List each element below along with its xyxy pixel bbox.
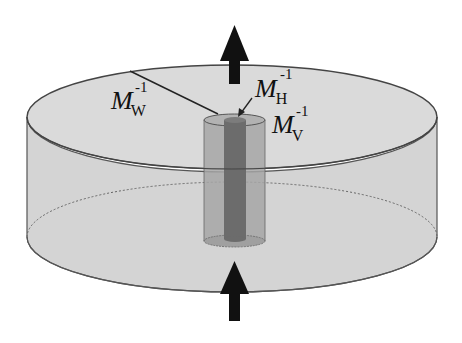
label-m-w-sub: W bbox=[131, 102, 146, 119]
label-m-v-sup: -1 bbox=[296, 104, 309, 119]
grain-overlay bbox=[0, 0, 462, 343]
label-m-h: MH-1 bbox=[255, 76, 288, 102]
diagram-canvas bbox=[0, 0, 462, 343]
label-m-w-base: M bbox=[111, 86, 133, 115]
label-m-w-sup: -1 bbox=[135, 80, 148, 95]
label-m-v-sub: V bbox=[292, 127, 304, 144]
label-m-h-base: M bbox=[255, 74, 277, 103]
label-m-v-base: M bbox=[272, 110, 294, 139]
label-m-h-sub: H bbox=[276, 90, 288, 107]
label-m-w: MW-1 bbox=[111, 88, 148, 114]
label-m-h-sup: -1 bbox=[280, 67, 293, 82]
label-m-v: MV-1 bbox=[272, 112, 305, 138]
